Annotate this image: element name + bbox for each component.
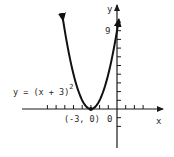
equation-exponent: 2 bbox=[69, 83, 73, 91]
equation-base: y = (x + 3) bbox=[13, 87, 69, 97]
origin-label: 0 bbox=[107, 114, 112, 124]
vertex-label: (-3, 0) bbox=[64, 114, 100, 124]
equation-label: y = (x + 3)2 bbox=[13, 83, 74, 97]
vertex-point bbox=[89, 107, 93, 111]
x-axis-label: x bbox=[156, 116, 162, 126]
parabola-graph: y 9 x 0 (-3, 0) y = (x + 3)2 bbox=[0, 0, 174, 157]
y-axis-label: y bbox=[107, 4, 113, 14]
y-tick-label-9: 9 bbox=[105, 26, 110, 36]
